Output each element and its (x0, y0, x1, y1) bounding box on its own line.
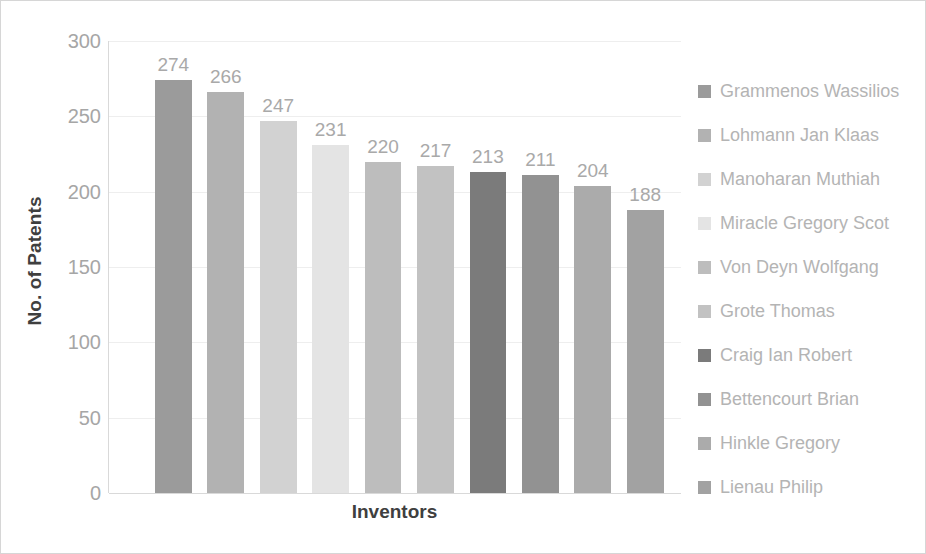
legend-swatch-icon (698, 129, 711, 142)
legend-item[interactable]: Von Deyn Wolfgang (698, 245, 922, 289)
legend-item[interactable]: Grammenos Wassilios (698, 69, 922, 113)
bar-value-label: 247 (246, 95, 311, 117)
legend: Grammenos WassiliosLohmann Jan KlaasMano… (698, 69, 922, 509)
legend-item-label: Hinkle Gregory (720, 433, 840, 454)
bar-group: 204 (574, 41, 611, 493)
y-axis-tick-label: 0 (45, 482, 101, 505)
bar-group: 211 (522, 41, 559, 493)
bar[interactable] (365, 162, 402, 493)
legend-item-label: Von Deyn Wolfgang (720, 257, 879, 278)
bar-value-label: 204 (560, 160, 625, 182)
bar-group: 247 (260, 41, 297, 493)
bar[interactable] (155, 80, 192, 493)
bar-chart: No. of Patents 300250200150100500 274266… (0, 0, 926, 554)
legend-item-label: Lienau Philip (720, 477, 823, 498)
bar-value-label: 266 (193, 66, 258, 88)
bar[interactable] (207, 92, 244, 493)
y-axis-tick-labels: 300250200150100500 (39, 1, 101, 554)
bar-value-label: 188 (613, 184, 678, 206)
legend-item[interactable]: Lohmann Jan Klaas (698, 113, 922, 157)
bar[interactable] (260, 121, 297, 493)
legend-swatch-icon (698, 437, 711, 450)
x-axis-title: Inventors (108, 501, 681, 523)
bar-group: 217 (417, 41, 454, 493)
bar-group: 274 (155, 41, 192, 493)
legend-item-label: Bettencourt Brian (720, 389, 859, 410)
legend-swatch-icon (698, 349, 711, 362)
legend-item[interactable]: Grote Thomas (698, 289, 922, 333)
legend-swatch-icon (698, 481, 711, 494)
bar-group: 213 (470, 41, 507, 493)
bar[interactable] (522, 175, 559, 493)
bar[interactable] (470, 172, 507, 493)
legend-item-label: Lohmann Jan Klaas (720, 125, 879, 146)
y-axis-tick-label: 200 (45, 180, 101, 203)
legend-item-label: Grammenos Wassilios (720, 81, 899, 102)
legend-item[interactable]: Lienau Philip (698, 465, 922, 509)
y-axis-tick-label: 150 (45, 256, 101, 279)
legend-item[interactable]: Craig Ian Robert (698, 333, 922, 377)
bars-layer: 274266247231220217213211204188 (109, 41, 681, 493)
y-axis-tick-label: 100 (45, 331, 101, 354)
bar[interactable] (574, 186, 611, 493)
bar-group: 220 (365, 41, 402, 493)
bar-group: 188 (627, 41, 664, 493)
legend-item-label: Miracle Gregory Scot (720, 213, 889, 234)
legend-swatch-icon (698, 393, 711, 406)
y-axis-tick-label: 50 (45, 406, 101, 429)
bar-group: 266 (207, 41, 244, 493)
y-axis-tick-label: 300 (45, 30, 101, 53)
legend-swatch-icon (698, 261, 711, 274)
axis-baseline (109, 493, 681, 494)
legend-item-label: Manoharan Muthiah (720, 169, 880, 190)
legend-item[interactable]: Miracle Gregory Scot (698, 201, 922, 245)
legend-item[interactable]: Hinkle Gregory (698, 421, 922, 465)
bar[interactable] (312, 145, 349, 493)
legend-swatch-icon (698, 173, 711, 186)
legend-item[interactable]: Manoharan Muthiah (698, 157, 922, 201)
legend-swatch-icon (698, 217, 711, 230)
bar[interactable] (417, 166, 454, 493)
legend-item[interactable]: Bettencourt Brian (698, 377, 922, 421)
legend-item-label: Craig Ian Robert (720, 345, 852, 366)
plot-area: 274266247231220217213211204188 (108, 41, 681, 493)
legend-swatch-icon (698, 85, 711, 98)
y-axis-tick-label: 250 (45, 105, 101, 128)
bar[interactable] (627, 210, 664, 493)
legend-swatch-icon (698, 305, 711, 318)
legend-item-label: Grote Thomas (720, 301, 835, 322)
bar-group: 231 (312, 41, 349, 493)
